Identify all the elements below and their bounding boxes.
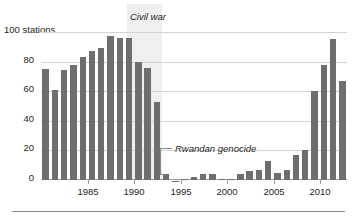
bar-2010: [311, 91, 317, 180]
bar-series: [41, 32, 347, 180]
y-axis-label-20: 20: [4, 143, 34, 153]
x-axis-label-1985: 1985: [77, 186, 98, 197]
bar-1999: [209, 174, 215, 180]
bar-2001: [228, 179, 234, 180]
plot-area: [41, 32, 347, 180]
bar-1985: [80, 57, 86, 180]
genocide-leader-line-vertical: [160, 148, 161, 174]
bar-1998: [200, 174, 206, 180]
bar-1992: [144, 68, 150, 180]
x-tick-1995: [181, 180, 182, 184]
bar-2012: [330, 39, 336, 180]
y-axis-label-0: 0: [4, 173, 34, 183]
bar-1986: [89, 51, 95, 180]
bar-2009: [302, 150, 308, 180]
bar-2011: [321, 65, 327, 180]
x-tick-1985: [88, 180, 89, 184]
x-tick-2000: [227, 180, 228, 184]
bar-2005: [265, 161, 271, 180]
bar-2006: [274, 173, 280, 180]
x-tick-2010: [320, 180, 321, 184]
bar-2007: [284, 170, 290, 180]
civil-war-annotation: Civil war: [130, 11, 166, 22]
bar-chart-figure: 100 stations 80 60 40 20 0 Civil war Rwa…: [0, 0, 356, 224]
x-axis-label-2000: 2000: [216, 186, 237, 197]
bar-1997: [191, 177, 197, 180]
bar-2002: [237, 174, 243, 180]
x-axis-label-2005: 2005: [263, 186, 284, 197]
bar-2003: [246, 171, 252, 180]
genocide-leader-line-top: [160, 148, 172, 149]
bar-1987: [98, 48, 104, 180]
bar-1990: [126, 38, 132, 180]
bar-1991: [135, 62, 141, 180]
bar-1981: [42, 69, 48, 180]
footer-rule: [12, 211, 345, 212]
bar-2004: [256, 170, 262, 180]
x-tick-2005: [274, 180, 275, 184]
bar-2000: [219, 179, 225, 180]
y-axis-label-60: 60: [4, 84, 34, 94]
bar-1989: [117, 38, 123, 180]
x-axis-label-1995: 1995: [170, 186, 191, 197]
bar-1988: [107, 36, 113, 180]
genocide-leader-line-bottom: [160, 174, 166, 175]
bar-2013: [339, 81, 345, 180]
bar-2008: [293, 155, 299, 180]
bar-1983: [61, 70, 67, 180]
x-axis-label-1990: 1990: [123, 186, 144, 197]
y-axis-label-80: 80: [4, 55, 34, 65]
x-tick-1990: [134, 180, 135, 184]
bar-1982: [52, 90, 58, 180]
bar-1995: [172, 181, 178, 182]
y-axis-label-40: 40: [4, 114, 34, 124]
bar-1984: [70, 65, 76, 180]
bar-1996: [182, 179, 188, 180]
x-axis-label-2010: 2010: [309, 186, 330, 197]
rwandan-genocide-annotation: Rwandan genocide: [175, 143, 256, 154]
